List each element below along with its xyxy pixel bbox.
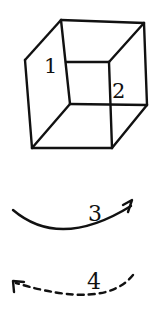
arrow-4-curve [16, 275, 133, 295]
rotation-arrow-3: 3 [13, 200, 132, 229]
face-label-2: 2 [112, 79, 125, 103]
rotation-arrow-4: 4 [13, 269, 133, 295]
cube-edge-right-vertical [144, 23, 147, 105]
figure-canvas: 1 2 3 4 [0, 0, 158, 313]
cube-edge-top [61, 20, 144, 23]
arrow-4-head-icon [13, 281, 24, 292]
cube-edge-left-vertical [25, 60, 32, 148]
cube-edge-bottom-right-diag [112, 105, 147, 148]
cube-edge-inner-bottom [70, 104, 147, 105]
arrow-3-curve [13, 206, 131, 229]
cube-edge-top-right-diag [109, 23, 144, 62]
face-label-1: 1 [44, 54, 57, 78]
arrow-label-4: 4 [87, 269, 101, 294]
cube-edge-bottom-left-diag [32, 104, 70, 148]
arrow-label-3: 3 [88, 201, 102, 226]
necker-cube-figure: 1 2 3 4 [0, 0, 158, 313]
necker-cube [25, 20, 147, 148]
